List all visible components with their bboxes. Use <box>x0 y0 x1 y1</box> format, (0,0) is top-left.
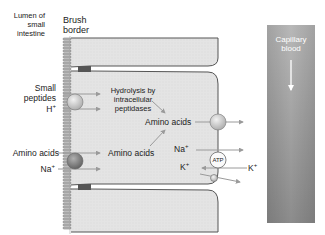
hydrolysis-line: Hydrolysis by <box>103 86 163 95</box>
k-ion-charge: + <box>254 162 258 168</box>
h-ion-charge: + <box>52 103 56 109</box>
peptide-transporter <box>67 94 83 110</box>
amino-acid-na-cotransporter <box>67 153 83 169</box>
k-ion-cell-label: K+ <box>180 162 189 172</box>
lumen-label: Lumen of small intestine <box>14 11 45 38</box>
hydrolysis-line: intracellular <box>103 95 163 104</box>
brush-border-label-line: Brush <box>63 15 89 25</box>
atp-label: ATP <box>210 156 226 164</box>
lumen-label-line: Lumen of <box>14 11 45 20</box>
capillary-label-line: blood <box>267 44 315 53</box>
tight-junction-lower <box>78 184 91 190</box>
upper-cell <box>70 38 218 67</box>
na-ion-charge: + <box>51 163 55 169</box>
hydrolysis-label: Hydrolysis by intracellular peptidases <box>103 86 163 113</box>
amino-acids-lower-label: Amino acids <box>108 148 154 158</box>
k-ion-blood-label: K+ <box>248 163 257 173</box>
h-ion-label: H+ <box>46 104 56 114</box>
hydrolysis-line: peptidases <box>103 104 163 113</box>
lower-cell <box>70 189 218 232</box>
na-ion-symbol: Na <box>174 144 185 154</box>
small-peptides-line: Small <box>24 83 56 93</box>
small-peptides-line: peptides <box>24 93 56 103</box>
capillary-label: Capillary blood <box>267 35 315 53</box>
amino-acids-upper-label: Amino acids <box>145 117 191 127</box>
na-ion-lumen-label: Na+ <box>41 164 55 174</box>
small-peptides-label: Small peptides <box>24 83 56 103</box>
tight-junction-upper <box>78 66 91 72</box>
small-channel <box>211 175 218 182</box>
brush-border-label: Brush border <box>63 15 89 35</box>
amino-acids-lumen-label: Amino acids <box>13 148 59 158</box>
capillary-label-line: Capillary <box>267 35 315 44</box>
na-ion-cell-label: Na+ <box>174 144 188 154</box>
k-ion-charge: + <box>186 161 190 167</box>
lumen-label-line: intestine <box>14 29 45 38</box>
na-ion-charge: + <box>185 143 189 149</box>
basolateral-amino-acid-transporter <box>210 114 226 130</box>
na-ion-symbol: Na <box>41 164 52 174</box>
brush-border-label-line: border <box>63 25 89 35</box>
lumen-label-line: small <box>14 20 45 29</box>
